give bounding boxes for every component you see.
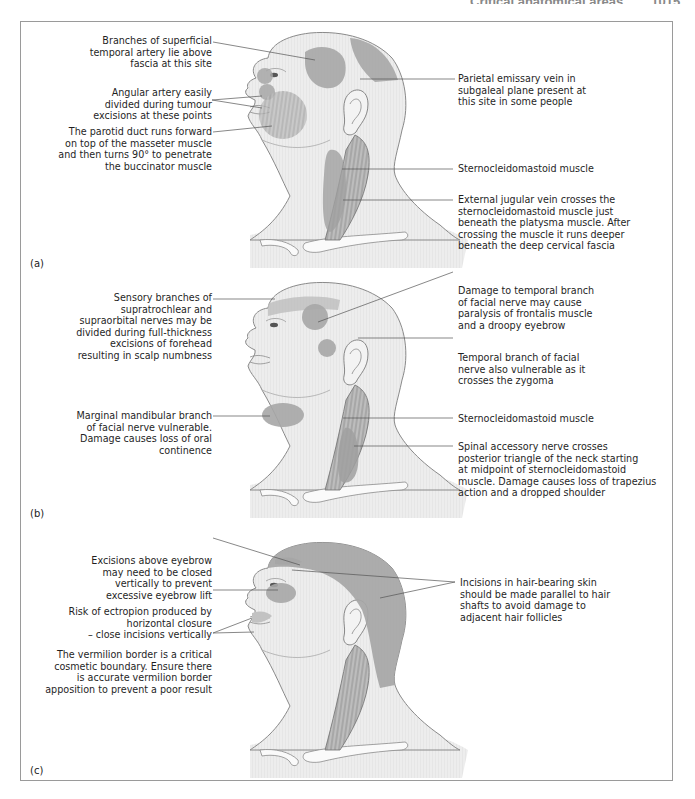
annotation-vermilion-border: The vermilion border is a critical cosme… — [20, 649, 212, 695]
panel-a-illustration — [212, 32, 468, 268]
annotation-excisions-above-eyebrow: Excisions above eyebrow may need to be c… — [40, 555, 212, 601]
annotation-parietal-emissary-vein: Parietal emissary vein in subgaleal plan… — [458, 73, 586, 108]
annotation-temporal-branch-zygoma: Temporal branch of facial nerve also vul… — [458, 352, 585, 387]
panel-c-illustration — [213, 538, 468, 778]
panel-b-illustration — [213, 272, 468, 518]
panel-label-c: (c) — [30, 765, 43, 776]
annotation-temporal-branch-damage: Damage to temporal branch of facial nerv… — [458, 285, 594, 331]
panel-label-b: (b) — [30, 508, 44, 519]
annotation-hair-bearing-incisions: Incisions in hair-bearing skin should be… — [460, 577, 610, 623]
annotation-spinal-accessory-nerve: Spinal accessory nerve crosses posterior… — [458, 441, 656, 499]
annotation-parotid-duct: The parotid duct runs forward on top of … — [20, 126, 212, 172]
panel-label-a: (a) — [30, 258, 44, 269]
annotation-sternocleidomastoid-a: Sternocleidomastoid muscle — [458, 163, 594, 175]
annotation-sternocleidomastoid-b: Sternocleidomastoid muscle — [458, 413, 594, 425]
annotation-superficial-temporal-artery: Branches of superficial temporal artery … — [40, 35, 212, 70]
annotation-marginal-mandibular: Marginal mandibular branch of facial ner… — [40, 410, 212, 456]
annotation-sensory-branches: Sensory branches of supratrochlear and s… — [40, 292, 212, 361]
annotation-external-jugular-vein: External jugular vein crosses the sterno… — [458, 194, 630, 252]
annotation-angular-artery: Angular artery easily divided during tum… — [40, 87, 212, 122]
annotation-ectropion-risk: Risk of ectropion produced by horizontal… — [30, 606, 212, 641]
